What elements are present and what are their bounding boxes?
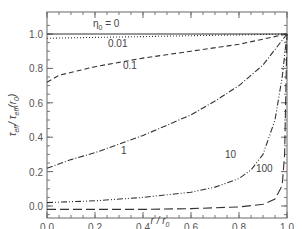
x-tick-label: 0.2 <box>88 222 102 229</box>
chart: 0.00.20.40.60.81.00.00.20.40.60.81.0η0 =… <box>0 0 302 229</box>
plot-frame <box>47 12 287 218</box>
label-eta-1: 1 <box>121 145 127 156</box>
x-tick-label: 0.4 <box>136 222 150 229</box>
x-tick-label: 0.8 <box>232 222 246 229</box>
x-tick-label: 1.0 <box>280 222 294 229</box>
label-eta-100: 100 <box>256 163 273 174</box>
x-tick-label: 0.0 <box>40 222 54 229</box>
y-tick-label: 1.0 <box>29 29 43 40</box>
label-eta-0: η0 = 0 <box>93 18 120 31</box>
label-eta-0.01: 0.01 <box>108 38 128 49</box>
y-tick-label: 0.2 <box>29 167 43 178</box>
x-tick-label: 0.6 <box>184 222 198 229</box>
curve-eta-0_01 <box>47 34 287 38</box>
curve-eta-100 <box>47 34 287 209</box>
label-eta-10: 10 <box>225 149 237 160</box>
y-tick-label: 0.0 <box>29 201 43 212</box>
label-eta-0.1: 0.1 <box>123 60 137 71</box>
y-tick-label: 0.6 <box>29 98 43 109</box>
y-tick-label: 0.4 <box>29 132 43 143</box>
y-tick-label: 0.8 <box>29 63 43 74</box>
curve-eta-10 <box>47 34 287 203</box>
y-axis-title: τeff/ τeff(r0) <box>7 94 20 137</box>
